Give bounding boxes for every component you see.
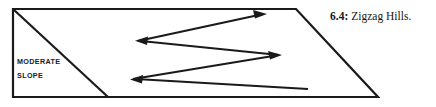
moderate-slope-label-line1: MODERATE [17,58,60,65]
figure-caption-title: Zigzag Hills. [351,10,411,22]
figure-caption-number: 6.4: [330,10,348,22]
hill-outline-parallelogram [13,9,378,97]
figure-container: MODERATE SLOPE 6.4:Zigzag Hills. [0,0,436,107]
figure-caption: 6.4:Zigzag Hills. [330,10,434,24]
moderate-slope-label-line2: SLOPE [17,72,43,79]
